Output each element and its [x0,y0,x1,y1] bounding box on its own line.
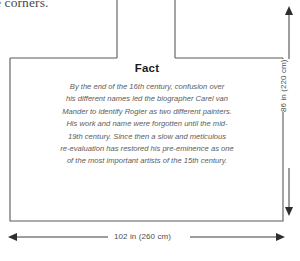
fact-body-line: By the end of the 16th century, confusio… [38,81,256,93]
fact-body-line: Mander to identify Rogier as two differe… [38,106,256,118]
fact-body-line: re-evaluation has restored his pre-emine… [38,143,256,155]
width-dimension-label: 102 in (260 cm) [110,232,175,241]
floor-plan-diagram: e corners. Fact By the end of the 16th c… [0,0,300,261]
height-dimension-label: 86 in (220 cm) [276,59,291,112]
arrow-up-icon [285,6,293,15]
arrow-left-icon [8,233,17,241]
fact-body-line: 19th century. Since then a slow and meti… [38,131,256,143]
fact-body-line: of the most important artists of the 15t… [38,155,256,167]
fact-panel-body: By the end of the 16th century, confusio… [12,81,282,168]
fact-body-line: his different names led the biographer C… [38,93,256,105]
fact-panel: Fact By the end of the 16th century, con… [12,62,282,168]
arrow-down-icon [285,207,293,216]
arrow-right-icon [276,233,285,241]
fact-panel-title: Fact [12,62,282,74]
fact-body-line: His work and name were forgotten until t… [38,118,256,130]
